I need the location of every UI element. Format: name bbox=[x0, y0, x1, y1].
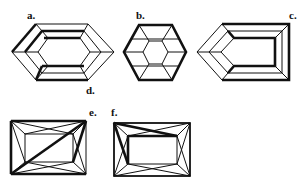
label-e: e. bbox=[89, 106, 97, 118]
gem-cut-diagrams: a. b. c. d. e. f. bbox=[0, 0, 304, 188]
diagram-f bbox=[114, 123, 190, 176]
label-d: d. bbox=[86, 84, 95, 96]
diagram-b bbox=[124, 25, 186, 80]
label-c: c. bbox=[289, 9, 297, 21]
label-b: b. bbox=[136, 9, 145, 21]
diagram-c bbox=[197, 24, 289, 80]
diagram-e bbox=[11, 121, 86, 174]
label-a: a. bbox=[27, 9, 36, 21]
label-f: f. bbox=[111, 106, 118, 118]
diagram-a bbox=[12, 24, 114, 80]
